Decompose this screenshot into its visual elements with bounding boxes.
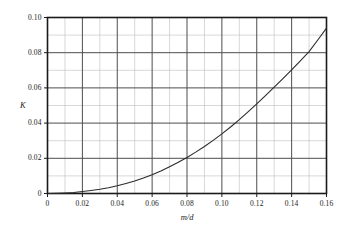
x-axis-title: m/d — [167, 212, 207, 222]
y-tick-label: 0.08 — [28, 48, 42, 57]
y-tick-label: 0 — [38, 189, 42, 198]
chart-plot-svg — [0, 0, 340, 230]
y-tick-label: 0.04 — [28, 118, 42, 127]
y-tick-label: 0.06 — [28, 83, 42, 92]
x-tick-label: 0.16 — [307, 199, 340, 208]
y-tick-label: 0.02 — [28, 153, 42, 162]
y-axis-title: K — [20, 100, 26, 110]
y-tick-label: 0.10 — [28, 13, 42, 22]
plot-background — [0, 0, 340, 230]
chart-figure: 00.020.040.060.080.10 00.020.040.060.080… — [0, 0, 340, 230]
